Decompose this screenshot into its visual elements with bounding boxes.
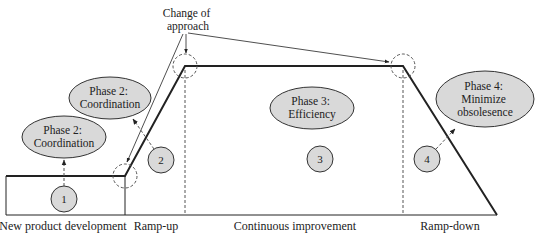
- stage-label-continuous: Continuous improvement: [234, 219, 357, 233]
- marker-2: 2: [148, 147, 174, 173]
- stage-label-rampdown: Ramp-down: [420, 219, 479, 233]
- marker-1: 1: [51, 186, 77, 212]
- stage-label-npd: New product development: [0, 219, 127, 233]
- svg-text:Phase 3: Efficiency: Phase 3: Efficiency: [288, 95, 336, 121]
- phase4-ellipse: Phase 4: Minimize obsolesence: [436, 71, 534, 127]
- svg-text:2: 2: [158, 154, 164, 166]
- marker-3: 3: [307, 146, 333, 172]
- svg-text:Phase 4: Minimize: Phase 4: Minimize obsolesence: [457, 80, 513, 118]
- svg-text:3: 3: [317, 153, 323, 165]
- phase3-ellipse: Phase 3: Efficiency: [270, 87, 354, 129]
- stage-label-rampup: Ramp-up: [134, 219, 179, 233]
- svg-text:1: 1: [61, 193, 67, 205]
- marker-4: 4: [414, 146, 440, 172]
- annotation-pointer-rampdown: [188, 33, 389, 62]
- change-of-approach-label: Change of approach: [163, 7, 213, 33]
- product-lifecycle-diagram: Change of approach Phase 2: Coordination…: [0, 0, 538, 233]
- svg-text:4: 4: [424, 153, 430, 165]
- phase2-lower-ellipse: Phase 2: Coordination: [22, 116, 106, 158]
- phase2-upper-ellipse: Phase 2: Coordination: [69, 77, 151, 119]
